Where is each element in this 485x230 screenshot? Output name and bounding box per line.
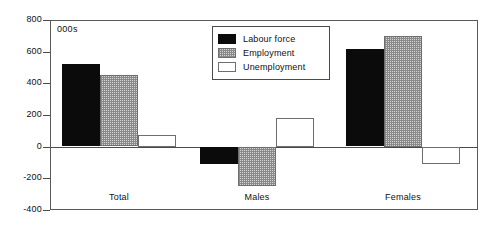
x-axis-label-females: Females xyxy=(326,193,480,202)
legend-item-label: Unemployment xyxy=(243,63,305,72)
legend-item-labour-force: Labour force xyxy=(218,32,323,46)
bar-females-labour-force xyxy=(346,49,384,146)
legend-item-employment: Employment xyxy=(218,46,323,60)
x-axis-label-total: Total xyxy=(42,193,196,202)
legend-item-label: Employment xyxy=(243,49,295,58)
legend-swatch-icon xyxy=(218,34,236,44)
bar-total-unemployment xyxy=(138,135,176,147)
legend-item-label: Labour force xyxy=(243,35,295,44)
legend-swatch-icon xyxy=(218,48,236,58)
y-axis-tick xyxy=(43,83,50,84)
y-axis-tick xyxy=(43,147,50,148)
bar-females-employment xyxy=(384,36,422,147)
legend-item-unemployment: Unemployment xyxy=(218,60,323,74)
units-label: 000s xyxy=(57,24,78,34)
bar-males-labour-force xyxy=(200,147,238,164)
chart-legend: Labour forceEmploymentUnemployment xyxy=(212,26,330,80)
y-axis-tick-label: 200 xyxy=(2,110,42,119)
bar-total-labour-force xyxy=(62,64,100,146)
bar-total-employment xyxy=(100,75,138,146)
y-axis-tick xyxy=(43,178,50,179)
y-axis-tick-label: 400 xyxy=(2,78,42,87)
bar-chart: 8006004002000-200-400 000s TotalMalesFem… xyxy=(0,0,485,230)
y-axis-tick-label: 600 xyxy=(2,47,42,56)
y-axis-line xyxy=(50,20,51,210)
y-axis-tick-label: 0 xyxy=(2,142,42,151)
y-axis-tick-label: 800 xyxy=(2,15,42,24)
bar-males-employment xyxy=(238,147,276,186)
legend-swatch-icon xyxy=(218,62,236,72)
bar-females-unemployment xyxy=(422,147,460,164)
x-axis-label-males: Males xyxy=(180,193,334,202)
y-axis-tick xyxy=(43,210,50,211)
bar-males-unemployment xyxy=(276,118,314,147)
y-axis-tick-label: -400 xyxy=(2,205,42,214)
y-axis-tick xyxy=(43,52,50,53)
y-axis-tick xyxy=(43,20,50,21)
y-axis-tick xyxy=(43,115,50,116)
y-axis-tick-label: -200 xyxy=(2,173,42,182)
